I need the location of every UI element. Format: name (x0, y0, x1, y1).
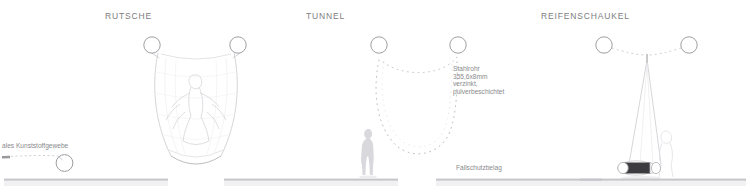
dotted-rope (648, 48, 681, 55)
swing-rope-left (629, 63, 647, 164)
tire-hole-right (651, 162, 660, 173)
circle-icon (681, 37, 697, 53)
ground-line (580, 179, 746, 181)
reifenschaukel-group (596, 37, 697, 180)
swing-rope-mid (647, 63, 653, 164)
ground-shadow (580, 181, 746, 186)
person-silhouette-icon (659, 131, 673, 177)
drawing-sheet: ales Kunststoffgewebe RUTSCHE (0, 0, 746, 193)
tire-hole-left (618, 162, 628, 173)
dotted-rope (612, 48, 646, 55)
swing-rope-right (648, 63, 662, 164)
circle-icon (596, 37, 612, 53)
panel-reifenschaukel-graphics (0, 0, 746, 193)
